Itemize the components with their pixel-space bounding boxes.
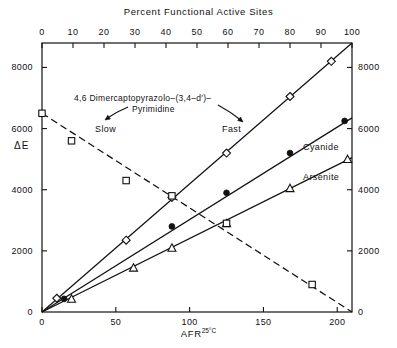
series-group [39, 43, 352, 312]
top-axis-tick-label: 40 [161, 27, 172, 37]
data-point [61, 296, 67, 302]
series-pyrazolopyrimidine [42, 43, 352, 312]
figure-container: Percent Functional Active Sites AFR25°C … [0, 0, 397, 348]
top-axis-tick-label: 50 [192, 27, 203, 37]
top-axis-tick-label: 60 [223, 27, 234, 37]
top-axis-tick-label: 70 [254, 27, 265, 37]
right-axis-tick-label: 8000 [358, 62, 380, 72]
data-point [223, 220, 229, 226]
x-axis-tick-label: 50 [110, 317, 121, 327]
series-fit-line [42, 43, 352, 312]
y-axis-tick-label: 0 [0, 307, 33, 317]
top-axis-tick-label: 20 [99, 27, 110, 37]
x-axis-tick-label: 0 [39, 317, 44, 327]
top-axis-tick-label: 30 [130, 27, 141, 37]
x-axis-tick-label: 100 [182, 317, 198, 327]
data-point [309, 281, 315, 287]
y-axis-tick-label: 8000 [0, 62, 33, 72]
top-axis-tick-label: 90 [316, 27, 327, 37]
y-axis-tick-label: 4000 [0, 185, 33, 195]
top-axis-tick-label: 0 [39, 27, 44, 37]
annotation-arrows [105, 105, 243, 122]
x-axis-tick-label: 150 [255, 317, 271, 327]
x-axis-tick-label: 200 [329, 317, 345, 327]
annotation-arrow-fast [218, 105, 242, 121]
data-point [287, 150, 293, 156]
data-point [224, 190, 230, 196]
right-axis-tick-label: 2000 [358, 246, 380, 256]
plot-area [0, 0, 397, 348]
top-axis-tick-label: 100 [344, 27, 360, 37]
data-point [342, 118, 348, 124]
right-axis-tick-label: 4000 [358, 185, 380, 195]
right-axis-tick-label: 6000 [358, 124, 380, 134]
y-axis-tick-label: 2000 [0, 246, 33, 256]
right-axis-tick-label: 0 [358, 307, 363, 317]
data-point [39, 110, 45, 116]
top-axis-tick-label: 80 [285, 27, 296, 37]
top-axis-tick-label: 10 [68, 27, 79, 37]
data-point [169, 224, 175, 230]
y-axis-tick-label: 6000 [0, 124, 33, 134]
data-point [168, 244, 176, 251]
series-arsenite [42, 158, 352, 312]
data-point [169, 193, 175, 199]
markers-slow-inactivation [39, 110, 316, 288]
series-fit-line [42, 158, 352, 312]
data-point [286, 184, 294, 191]
data-point [68, 138, 74, 144]
data-point [123, 177, 129, 183]
